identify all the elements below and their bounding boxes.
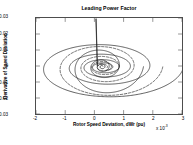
data-series-trajectory-solid-outer <box>44 45 182 97</box>
data-series-layer <box>44 19 182 97</box>
ytick-label: -0.02 <box>0 96 8 101</box>
ytick-label: 0.02 <box>0 31 8 36</box>
ytick-label: 0.01 <box>0 47 8 52</box>
figure-phase-portrait: Leading Power Factor Derivative of Speed… <box>0 0 193 145</box>
xtick-label: 0 <box>93 116 96 121</box>
ytick-label: -0.03 <box>0 112 8 117</box>
xtick-label: 2 <box>152 116 155 121</box>
page-title: Leading Power Factor <box>35 5 183 12</box>
x-exponent-power: -3 <box>165 124 168 128</box>
xtick-label: -1 <box>63 116 67 121</box>
plot-drawing-area <box>36 18 182 114</box>
xtick-label: -2 <box>33 116 37 121</box>
data-series-trajectory-solid-inner <box>75 50 143 93</box>
plot-axes-frame <box>35 17 183 115</box>
y-axis-label-container: Derivative of Speed Deviation <box>0 0 11 145</box>
xtick-label: 1 <box>123 116 126 121</box>
ytick-label: -0.01 <box>0 80 8 85</box>
ytick-label: 0 <box>5 63 8 68</box>
xtick-label: 3 <box>182 116 185 121</box>
x-exponent-base: x 10 <box>156 126 165 131</box>
data-series-trajectory-dashed <box>60 47 163 96</box>
ytick-label: 0.03 <box>0 14 8 19</box>
x-axis-exponent-multiplier: x 10-3 <box>156 124 168 131</box>
